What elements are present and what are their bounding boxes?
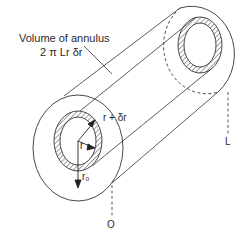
- inner-radius-label: r: [80, 141, 83, 151]
- annulus-diagram: Volume of annulus 2 π Lr δr r + δr r r₀ …: [0, 0, 241, 236]
- length-label: L: [225, 137, 231, 147]
- origin-label: O: [107, 220, 115, 230]
- annulus-volume-label: Volume of annulus: [19, 33, 110, 44]
- annulus-volume-formula: 2 π Lr δr: [40, 47, 82, 58]
- pipe-radius-label: r₀: [82, 172, 89, 182]
- outer-radius-label: r + δr: [103, 113, 127, 123]
